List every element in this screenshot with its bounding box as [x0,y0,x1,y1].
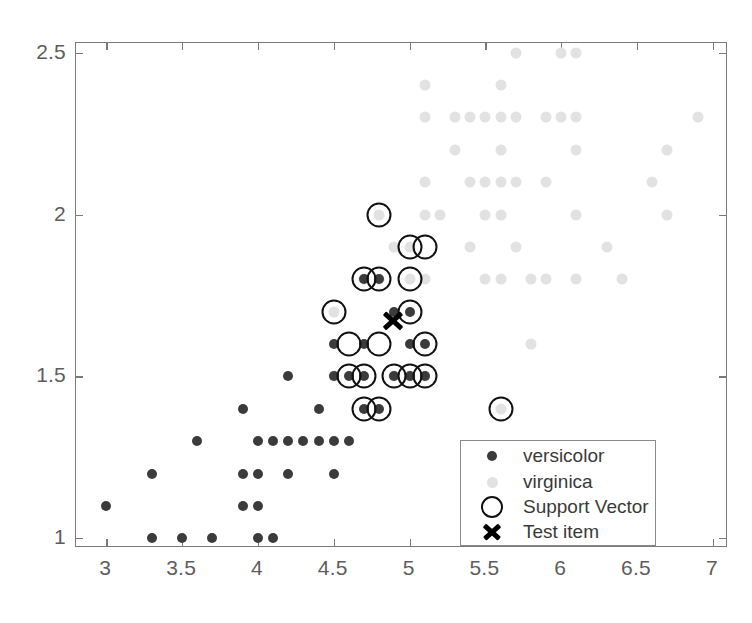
legend-label-test-item: Test item [523,521,599,543]
y-axis-tick-label: 1 [54,525,66,549]
x-axis-tick-label: 4.5 [318,556,348,580]
y-axis-tick-label: 2.5 [36,40,66,64]
support-vector-circle-icon [461,494,523,520]
x-axis-tick-label: 4 [251,556,263,580]
x-axis-tick-label: 5.5 [469,556,499,580]
test-item-x-icon [461,519,523,545]
y-axis-tick-label: 1.5 [36,363,66,387]
legend-label-support-vector: Support Vector [523,496,649,518]
legend-label-virginica: virginica [523,471,593,493]
legend-item-versicolor: versicolor [461,443,655,469]
x-axis-tick-label: 3 [99,556,111,580]
legend-item-test-item: Test item [461,519,655,545]
x-axis-tick-label: 3.5 [166,556,196,580]
legend-box: versicolor virginica Support Vector Test… [460,440,656,546]
versicolor-dot-icon [461,443,523,469]
legend-item-virginica: virginica [461,469,655,495]
virginica-dot-icon [461,469,523,495]
scatter-plot-figure: 33.544.555.566.57 11.522.5 versicolor vi… [0,0,752,623]
legend-item-support-vector: Support Vector [461,494,655,520]
x-axis-tick-label: 6 [554,556,566,580]
x-axis-tick-label: 7 [706,556,718,580]
y-axis-tick-label: 2 [54,202,66,226]
x-axis-tick-label: 6.5 [621,556,651,580]
x-axis-tick-label: 5 [403,556,415,580]
legend-label-versicolor: versicolor [523,445,604,467]
